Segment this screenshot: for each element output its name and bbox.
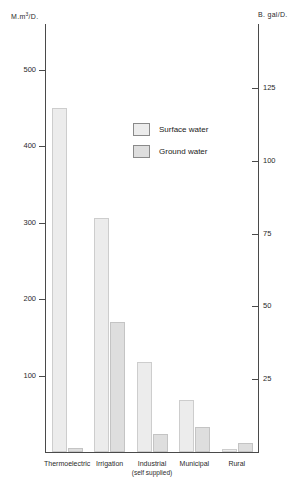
left-axis-tick-label: 100: [10, 372, 36, 380]
right-axis-tick-label: 25: [263, 375, 271, 383]
left-axis-unit-prefix: M.m: [11, 13, 26, 20]
bar-surface-water: [137, 362, 152, 452]
left-axis-tick: [39, 299, 46, 300]
legend-item-surface-water: Surface water: [133, 121, 208, 138]
bar-ground-water: [153, 434, 168, 452]
bar-ground-water: [68, 448, 83, 452]
bar-group: [46, 24, 88, 452]
right-axis-tick-label: 100: [263, 157, 276, 165]
bar-ground-water: [195, 427, 210, 452]
left-axis-tick-label: 200: [10, 295, 36, 303]
bar-surface-water: [222, 449, 237, 452]
plot-area: [46, 24, 258, 452]
legend-item-ground-water: Ground water: [133, 143, 208, 160]
bar-group: [88, 24, 130, 452]
category-label-text: Industrial: [138, 460, 166, 467]
left-axis-unit-suffix: /D.: [29, 13, 39, 20]
left-axis-tick: [39, 146, 46, 147]
legend-swatch-surface-water: [133, 123, 150, 136]
right-axis-tick-label: 75: [263, 230, 271, 238]
bar-group: [216, 24, 258, 452]
category-label-text: Municipal: [180, 460, 210, 467]
bar-surface-water: [94, 218, 109, 452]
chart-legend: Surface water Ground water: [133, 121, 208, 165]
left-axis-tick: [39, 70, 46, 71]
legend-label-ground-water: Ground water: [159, 147, 207, 156]
category-sublabel-text: (self supplied): [123, 468, 181, 477]
bar-ground-water: [110, 322, 125, 452]
left-axis-tick-label: 300: [10, 219, 36, 227]
category-label: Rural: [208, 459, 266, 468]
left-axis-tick-label: 400: [10, 142, 36, 150]
left-axis-tick: [39, 223, 46, 224]
bar-ground-water: [238, 443, 253, 452]
legend-label-surface-water: Surface water: [159, 125, 208, 134]
bottom-axis-spine: [45, 452, 259, 453]
right-axis-unit-label: B. gal/D.: [258, 11, 288, 18]
legend-swatch-ground-water: [133, 145, 150, 158]
bar-group: [131, 24, 173, 452]
left-axis-tick-label: 500: [10, 66, 36, 74]
category-label-text: Rural: [228, 460, 245, 467]
water-use-bar-chart: M.m3/D. B. gal/D. 100200300400500 255075…: [0, 0, 305, 481]
right-axis-tick-label: 125: [263, 84, 276, 92]
category-label-text: Irrigation: [96, 460, 123, 467]
bar-surface-water: [52, 108, 67, 452]
right-axis-tick-label: 50: [263, 302, 271, 310]
bar-group: [173, 24, 215, 452]
left-axis-unit-label: M.m3/D.: [11, 11, 38, 20]
bar-surface-water: [179, 400, 194, 452]
left-axis-tick: [39, 376, 46, 377]
